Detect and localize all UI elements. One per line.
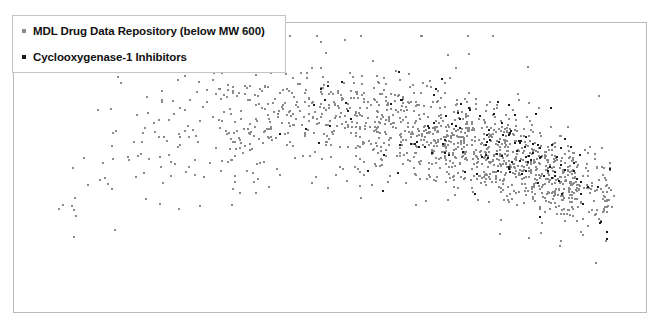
legend-entry-label: MDL Drug Data Repository (below MW 600) — [33, 25, 265, 37]
chart-legend: MDL Drug Data Repository (below MW 600) … — [12, 15, 286, 73]
legend-swatch-icon — [22, 29, 26, 33]
legend-entry-label: Cyclooxygenase-1 Inhibitors — [33, 51, 187, 63]
legend-entry-cyclooxygenase-1-inhibitors[interactable]: Cyclooxygenase-1 Inhibitors — [22, 50, 187, 64]
scatter-chart: MDL Drug Data Repository (below MW 600) … — [0, 0, 658, 330]
legend-swatch-icon — [22, 55, 26, 59]
legend-entry-mdl-drug-data-repository[interactable]: MDL Drug Data Repository (below MW 600) — [22, 24, 265, 38]
